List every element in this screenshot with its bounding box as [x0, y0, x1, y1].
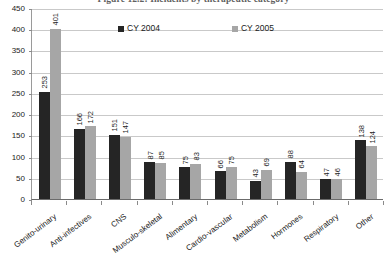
y-axis-label: 400	[0, 26, 25, 34]
bar-group: 4746	[314, 9, 349, 199]
bar-column: 85	[155, 9, 166, 199]
bar-value-label: 166	[76, 113, 84, 126]
bar[interactable]	[39, 92, 50, 199]
bar-value-label: 43	[252, 169, 260, 177]
bar[interactable]	[144, 162, 155, 199]
bar[interactable]	[331, 179, 342, 199]
bar-chart: Figure 12.2: Incidents by therapeutic ca…	[0, 0, 387, 273]
bar-column: 75	[226, 9, 237, 199]
bar[interactable]	[120, 137, 131, 199]
bar[interactable]	[109, 135, 120, 199]
bar-column: 88	[285, 9, 296, 199]
bar-column: 147	[120, 9, 131, 199]
bar-value-label: 83	[193, 152, 201, 160]
legend-label: CY 2005	[241, 24, 274, 33]
bar-column: 66	[215, 9, 226, 199]
x-axis-tick	[137, 201, 138, 205]
bar[interactable]	[250, 181, 261, 199]
bar[interactable]	[285, 162, 296, 199]
bar[interactable]	[261, 170, 272, 199]
bar-column: 124	[366, 9, 377, 199]
bar-column: 166	[74, 9, 85, 199]
bar-group: 8864	[278, 9, 313, 199]
plot-area: 450400350300250200150100500 253401166172…	[31, 9, 383, 200]
bar-value-label: 147	[122, 121, 130, 134]
y-axis-label: 150	[0, 132, 25, 140]
legend-entry[interactable]: CY 2005	[232, 24, 274, 33]
bar-column: 43	[250, 9, 261, 199]
x-axis-label: CNS	[110, 212, 129, 229]
bar-column: 75	[179, 9, 190, 199]
legend-label: CY 2004	[127, 24, 160, 33]
bar-column: 47	[320, 9, 331, 199]
y-axis-label: 50	[0, 175, 25, 183]
bar-column: 64	[296, 9, 307, 199]
bar-column: 138	[355, 9, 366, 199]
x-axis-tick	[383, 201, 384, 205]
y-axis-label: 350	[0, 47, 25, 55]
x-axis-label: Hormones	[270, 212, 305, 241]
x-axis-tick	[66, 201, 67, 205]
bar-value-label: 75	[182, 156, 190, 164]
y-axis-label: 0	[0, 196, 25, 204]
x-axis-label: Other	[354, 212, 375, 231]
y-axis-label: 250	[0, 90, 25, 98]
legend-entry[interactable]: CY 2004	[118, 24, 160, 33]
bar-value-label: 138	[358, 125, 366, 138]
bar-value-label: 253	[41, 76, 49, 89]
bar[interactable]	[85, 126, 96, 199]
bar[interactable]	[74, 129, 85, 199]
bar-column: 46	[331, 9, 342, 199]
y-axis-label: 300	[0, 69, 25, 77]
bar-value-label: 172	[87, 110, 95, 123]
bar-value-label: 124	[369, 131, 377, 144]
x-axis-tick	[348, 201, 349, 205]
y-axis-label: 200	[0, 111, 25, 119]
bar-column: 401	[50, 9, 61, 199]
bar-column: 87	[144, 9, 155, 199]
bar-group: 4369	[243, 9, 278, 199]
x-axis-tick	[172, 201, 173, 205]
bar-column: 69	[261, 9, 272, 199]
bar-group: 8785	[138, 9, 173, 199]
x-axis: Genito-urinaryAnti-infectivesCNSMusculo-…	[31, 201, 383, 273]
bar-value-label: 46	[334, 168, 342, 176]
x-axis-label: Respiratory	[302, 212, 340, 244]
x-axis-tick	[207, 201, 208, 205]
bar[interactable]	[179, 167, 190, 199]
bar-column: 151	[109, 9, 120, 199]
bar[interactable]	[226, 167, 237, 199]
bar-value-label: 69	[263, 158, 271, 166]
bar[interactable]	[155, 163, 166, 199]
bar[interactable]	[50, 29, 61, 199]
bar-group: 7583	[173, 9, 208, 199]
bar-value-label: 75	[228, 156, 236, 164]
bar-group: 138124	[349, 9, 384, 199]
bar-value-label: 66	[217, 160, 225, 168]
x-axis-tick	[242, 201, 243, 205]
bar[interactable]	[355, 140, 366, 199]
bar[interactable]	[366, 146, 377, 199]
bar[interactable]	[296, 172, 307, 199]
bar-column: 172	[85, 9, 96, 199]
bar-group: 166172	[67, 9, 102, 199]
bar-group: 151147	[102, 9, 137, 199]
bar-value-label: 401	[52, 13, 60, 26]
bar-value-label: 87	[147, 151, 155, 159]
bar-group: 6675	[208, 9, 243, 199]
legend-swatch-icon	[118, 26, 124, 32]
bar[interactable]	[320, 179, 331, 199]
bar-column: 83	[190, 9, 201, 199]
bar-value-label: 151	[111, 119, 119, 132]
bar-value-label: 64	[298, 161, 306, 169]
bar-value-label: 47	[323, 168, 331, 176]
x-axis-label: Metabolism	[231, 212, 269, 244]
x-axis-tick	[31, 201, 32, 205]
x-axis-tick	[101, 201, 102, 205]
bar-column: 253	[39, 9, 50, 199]
bar[interactable]	[190, 164, 201, 199]
bar[interactable]	[215, 171, 226, 199]
y-axis-label: 450	[0, 5, 25, 13]
chart-legend: CY 2004CY 2005	[110, 22, 310, 35]
x-axis-tick	[313, 201, 314, 205]
